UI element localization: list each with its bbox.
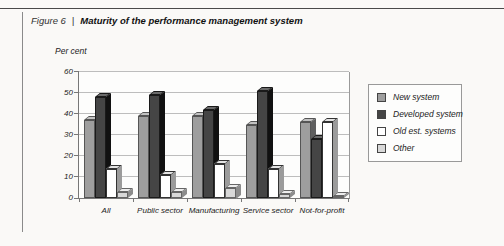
chart-plot-area: 0102030405060AllPublic sectorManufacturi… — [78, 72, 350, 199]
bar-new-system-manufacturing — [192, 116, 203, 198]
bar-group-not-for-profit — [295, 72, 349, 198]
y-tick-label-60: 60 — [47, 67, 73, 76]
y-tick-label-0: 0 — [47, 193, 73, 202]
bar-new-system-all — [84, 120, 95, 198]
bar-old-est-systems-all — [106, 169, 117, 198]
category-label-all: All — [78, 206, 134, 216]
bar-front-face — [333, 196, 344, 198]
y-tick-label-40: 40 — [47, 109, 73, 118]
bar-other-all — [117, 192, 128, 198]
bar-front-face — [117, 192, 128, 198]
bar-other-public-sector — [171, 192, 182, 198]
legend-item-developed-system: Developed system — [377, 109, 457, 119]
y-tick-label-50: 50 — [47, 88, 73, 97]
bar-developed-system-not-for-profit — [311, 139, 322, 198]
bar-front-face — [322, 122, 333, 198]
bar-group-manufacturing — [187, 72, 241, 198]
bar-group-service-sector — [241, 72, 295, 198]
bar-front-face — [246, 125, 257, 199]
title-separator: | — [72, 15, 74, 26]
bar-other-service-sector — [279, 194, 290, 198]
legend-swatch-old-est-systems — [377, 127, 386, 136]
bar-new-system-public-sector — [138, 116, 149, 198]
y-axis-unit-label: Per cent — [55, 46, 87, 56]
figure-title: Maturity of the performance management s… — [80, 15, 302, 26]
bar-developed-system-service-sector — [257, 91, 268, 198]
bar-developed-system-all — [95, 97, 106, 198]
legend-label-developed-system: Developed system — [393, 109, 463, 119]
legend-label-new-system: New system — [393, 92, 439, 102]
figure-left-rule — [22, 12, 23, 232]
bar-developed-system-manufacturing — [203, 110, 214, 198]
bar-front-face — [138, 116, 149, 198]
bar-side-face — [333, 118, 338, 198]
bar-new-system-service-sector — [246, 125, 257, 199]
x-tick-1 — [133, 198, 134, 202]
category-label-not-for-profit: Not-for-profit — [294, 206, 350, 216]
legend-label-old-est-systems: Old est. systems — [393, 126, 456, 136]
bar-old-est-systems-manufacturing — [214, 164, 225, 198]
bar-old-est-systems-public-sector — [160, 175, 171, 198]
x-tick-end — [348, 198, 349, 202]
bar-front-face — [95, 97, 106, 198]
legend-swatch-new-system — [377, 93, 386, 102]
bar-front-face — [300, 122, 311, 198]
bar-group-public-sector — [133, 72, 187, 198]
y-tick-label-20: 20 — [47, 151, 73, 160]
bar-other-not-for-profit — [333, 196, 344, 198]
legend-item-other: Other — [377, 143, 457, 153]
legend-item-new-system: New system — [377, 92, 457, 102]
category-label-service-sector: Service sector — [240, 206, 296, 216]
figure-number: Figure 6 — [31, 15, 66, 26]
bar-front-face — [192, 116, 203, 198]
bar-front-face — [311, 139, 322, 198]
x-tick-0 — [79, 198, 80, 202]
legend-item-old-est-systems: Old est. systems — [377, 126, 457, 136]
bar-developed-system-public-sector — [149, 95, 160, 198]
bar-front-face — [279, 194, 290, 198]
category-label-public-sector: Public sector — [132, 206, 188, 216]
bar-front-face — [84, 120, 95, 198]
bar-front-face — [225, 188, 236, 199]
x-tick-2 — [187, 198, 188, 202]
bar-front-face — [214, 164, 225, 198]
legend-label-other: Other — [393, 143, 414, 153]
bar-front-face — [203, 110, 214, 198]
bar-group-all — [79, 72, 133, 198]
x-tick-4 — [295, 198, 296, 202]
bar-front-face — [171, 192, 182, 198]
bar-front-face — [106, 169, 117, 198]
figure-top-rule — [0, 8, 504, 9]
bar-front-face — [149, 95, 160, 198]
bar-front-face — [257, 91, 268, 198]
legend-swatch-developed-system — [377, 110, 386, 119]
figure-title-row: Figure 6 | Maturity of the performance m… — [31, 15, 303, 26]
chart-legend: New systemDeveloped systemOld est. syste… — [368, 84, 462, 162]
y-tick-label-10: 10 — [47, 172, 73, 181]
x-tick-3 — [241, 198, 242, 202]
bar-new-system-not-for-profit — [300, 122, 311, 198]
category-label-manufacturing: Manufacturing — [186, 206, 242, 216]
y-tick-label-30: 30 — [47, 130, 73, 139]
bar-front-face — [160, 175, 171, 198]
bar-other-manufacturing — [225, 188, 236, 199]
bar-old-est-systems-not-for-profit — [322, 122, 333, 198]
legend-swatch-other — [377, 144, 386, 153]
